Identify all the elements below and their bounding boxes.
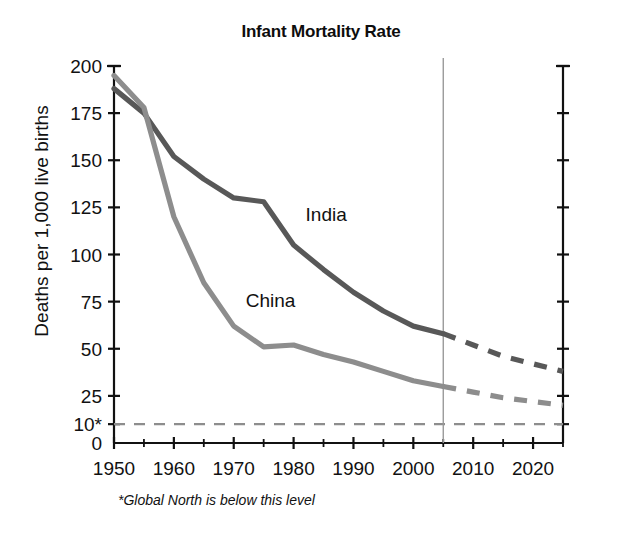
y-tick-label: 50 [81,339,102,360]
y-tick-label: 0 [91,433,102,454]
x-tick-label: 1990 [332,458,374,479]
x-tick-label: 1960 [153,458,195,479]
y-tick-label: 10* [73,414,102,435]
series-label-china: China [246,290,296,311]
series-projection-china [443,386,563,405]
y-tick-label: 200 [70,56,102,77]
y-tick-label: 75 [81,292,102,313]
y-tick-label: 100 [70,245,102,266]
x-tick-label: 2020 [512,458,554,479]
x-tick-label: 2000 [392,458,434,479]
chart-footnote: *Global North is below this level [118,492,315,508]
x-tick-label: 1970 [213,458,255,479]
x-tick-label: 2010 [452,458,494,479]
x-tick-label: 1980 [272,458,314,479]
chart-figure: Infant Mortality Rate Deaths per 1,000 l… [0,0,642,546]
x-tick-label: 1950 [93,458,135,479]
y-tick-label: 175 [70,103,102,124]
y-tick-label: 25 [81,386,102,407]
series-label-india: India [306,204,348,225]
series-projection-india [443,334,563,372]
chart-plot-area: 010*255075100125150175200195019601970198… [0,0,642,546]
y-tick-label: 125 [70,197,102,218]
y-tick-label: 150 [70,150,102,171]
series-line-china [114,75,443,386]
